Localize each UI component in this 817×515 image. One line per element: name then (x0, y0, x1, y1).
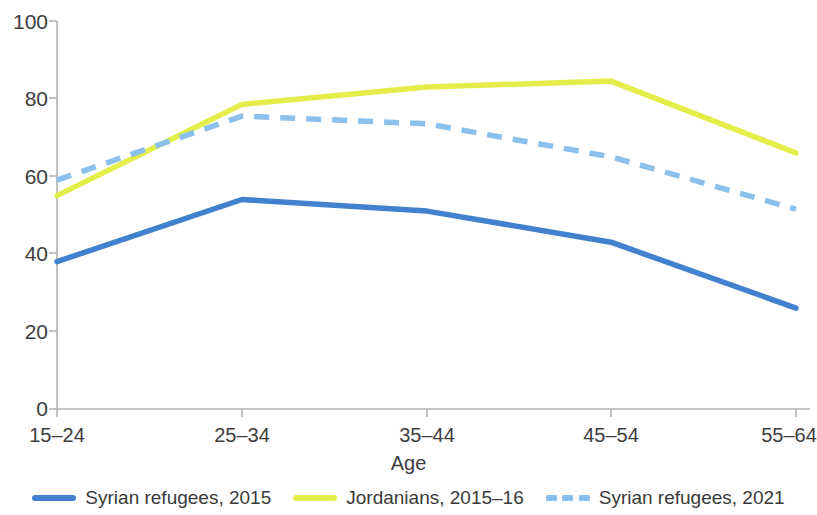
line-chart: 100 80 60 40 20 0 (0, 0, 817, 515)
x-axis-ticks (57, 409, 796, 417)
x-tick-label-15-24: 15–24 (29, 425, 85, 445)
legend-item-jordanians[interactable]: Jordanians, 2015–16 (293, 487, 523, 509)
legend-label-syrian-refugees-2015: Syrian refugees, 2015 (85, 487, 271, 509)
legend-line-swatch-icon (32, 495, 76, 501)
x-tick-label-55-64: 55–64 (761, 425, 817, 445)
x-tick-label-25-34: 25–34 (214, 425, 270, 445)
chart-legend: Syrian refugees, 2015 Jordanians, 2015–1… (0, 487, 817, 509)
legend-label-jordanians: Jordanians, 2015–16 (346, 487, 523, 509)
x-axis-title: Age (0, 452, 817, 474)
series-line-syrian-refugees-2021 (57, 116, 796, 209)
series-line-syrian-refugees-2015 (57, 200, 796, 309)
legend-item-syrian-refugees-2021[interactable]: Syrian refugees, 2021 (546, 487, 785, 509)
series-line-jordanians (57, 81, 796, 196)
legend-line-swatch-icon (293, 495, 337, 501)
x-tick-label-35-44: 35–44 (399, 425, 455, 445)
y-axis-ticks (49, 21, 57, 409)
legend-label-syrian-refugees-2021: Syrian refugees, 2021 (599, 487, 785, 509)
x-tick-label-45-54: 45–54 (583, 425, 639, 445)
legend-dashed-swatch-icon (546, 495, 590, 501)
legend-item-syrian-refugees-2015[interactable]: Syrian refugees, 2015 (32, 487, 271, 509)
